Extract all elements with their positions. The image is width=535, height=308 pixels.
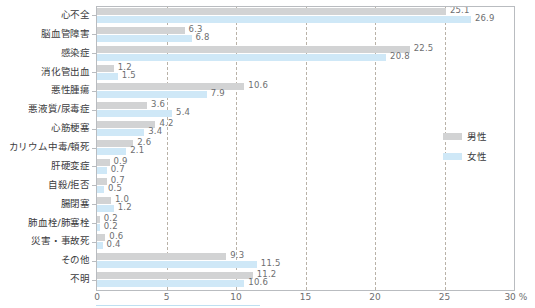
bar-value-label: 7.9 (211, 88, 225, 98)
category-label: 肺血栓/肺塞栓 (28, 214, 90, 233)
bar-value-label: 0.4 (107, 239, 121, 249)
category-label: 肝硬変症 (51, 157, 90, 176)
legend-swatch (443, 133, 462, 140)
x-axis-tick-label: 25 (439, 292, 450, 302)
bar-male (97, 102, 147, 109)
bar-male (97, 159, 110, 166)
bar-female (97, 148, 126, 155)
bar-female (97, 167, 107, 174)
horizontal-bar-chart: 心不全脳血管障害感染症消化管出血悪性腫瘍悪液質/尿毒症心筋梗塞カリウム中毒/頓死… (0, 0, 535, 308)
bar-value-label: 20.8 (390, 51, 410, 61)
x-axis-tick-label: 15 (300, 292, 311, 302)
bar-row: 1.01.2 (97, 196, 514, 215)
bar-female (97, 224, 100, 231)
bar-female (97, 242, 103, 249)
category-label: 悪性腫瘍 (51, 81, 90, 100)
bar-value-label: 0.2 (104, 221, 118, 231)
bar-row: 6.36.8 (97, 26, 514, 45)
bar-value-label: 9.3 (230, 250, 244, 260)
category-label: 心筋梗塞 (51, 119, 90, 138)
bar-value-label: 10.6 (248, 277, 268, 287)
category-label: 消化管出血 (41, 63, 90, 82)
x-axis-tick-label: 10 (230, 292, 241, 302)
bar-female (97, 35, 192, 42)
legend-label: 女性 (467, 148, 487, 166)
legend-swatch (443, 153, 462, 160)
bar-female (97, 54, 386, 61)
bar-male (97, 121, 155, 128)
bar-male (97, 46, 410, 53)
legend-label: 男性 (467, 128, 487, 146)
bar-male (97, 234, 105, 241)
bar-value-label: 3.6 (151, 99, 165, 109)
bar-value-label: 1.5 (122, 70, 136, 80)
bar-value-label: 6.8 (196, 32, 210, 42)
bar-male (97, 178, 107, 185)
bar-female (97, 110, 172, 117)
bar-male (97, 140, 133, 147)
bar-male (97, 65, 114, 72)
bar-row: 22.520.8 (97, 45, 514, 64)
category-label: 不明 (70, 270, 90, 289)
category-label: 腸閉塞 (61, 195, 90, 214)
category-label: 悪液質/尿毒症 (28, 100, 90, 119)
baseline-accent-line (96, 305, 260, 306)
bar-row: 25.126.9 (97, 7, 514, 26)
plot-area: 25.126.96.36.822.520.81.21.510.67.93.65.… (96, 6, 515, 291)
category-label: 自殺/拒否 (48, 176, 90, 195)
bar-rows: 25.126.96.36.822.520.81.21.510.67.93.65.… (97, 7, 514, 290)
bar-value-label: 3.4 (148, 126, 162, 136)
bar-female (97, 186, 104, 193)
bar-row: 0.60.4 (97, 233, 514, 252)
bar-male (97, 272, 253, 279)
category-label: 脳血管障害 (41, 25, 90, 44)
bar-value-label: 25.1 (450, 7, 470, 15)
bar-female (97, 261, 257, 268)
category-label: 心不全 (61, 6, 90, 25)
bar-female (97, 129, 144, 136)
bar-female (97, 280, 244, 287)
bar-row: 0.90.7 (97, 158, 514, 177)
bar-row: 0.70.5 (97, 177, 514, 196)
bar-value-label: 10.6 (248, 80, 268, 90)
x-axis-tick-label: 30 % (504, 292, 527, 302)
bar-row: 1.21.5 (97, 64, 514, 83)
category-label: カリウム中毒/頓死 (9, 138, 90, 157)
bar-row: 9.311.5 (97, 252, 514, 271)
bar-value-label: 11.5 (261, 258, 281, 268)
x-axis-tick-label: 20 (369, 292, 380, 302)
x-axis-tick-label: 5 (164, 292, 170, 302)
bar-female (97, 16, 471, 23)
bar-female (97, 91, 207, 98)
category-label: その他 (61, 251, 90, 270)
category-label: 感染症 (61, 44, 90, 63)
bar-row: 0.20.2 (97, 215, 514, 234)
bar-male (97, 8, 446, 15)
category-label: 災害・事故死 (31, 232, 90, 251)
bar-value-label: 5.4 (176, 107, 190, 117)
bar-male (97, 253, 226, 260)
bar-male (97, 216, 100, 223)
x-axis-tick-label: 0 (94, 292, 100, 302)
bar-female (97, 73, 118, 80)
bar-male (97, 27, 185, 34)
bar-value-label: 22.5 (414, 43, 434, 53)
bar-male (97, 197, 111, 204)
category-axis: 心不全脳血管障害感染症消化管出血悪性腫瘍悪液質/尿毒症心筋梗塞カリウム中毒/頓死… (0, 6, 94, 291)
bar-value-label: 2.1 (130, 145, 144, 155)
bar-row: 11.210.6 (97, 271, 514, 290)
bar-value-label: 26.9 (475, 13, 495, 23)
bar-value-label: 0.7 (111, 164, 125, 174)
bar-value-label: 1.2 (118, 202, 132, 212)
bar-female (97, 205, 114, 212)
bar-value-label: 0.5 (108, 183, 122, 193)
